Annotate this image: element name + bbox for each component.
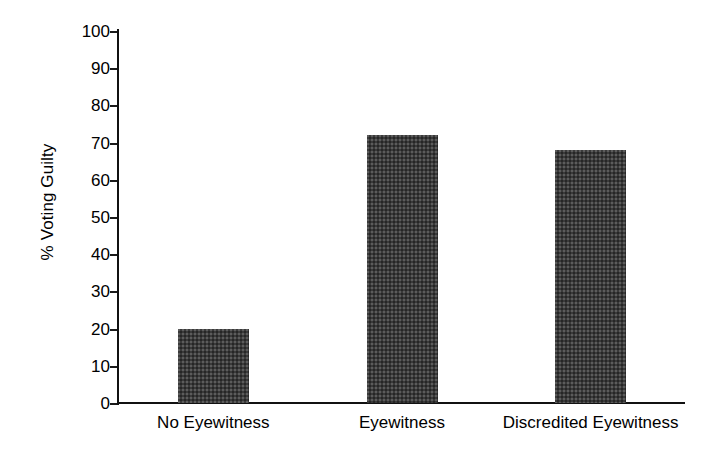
plot-area bbox=[119, 31, 685, 403]
y-axis-tick-label: 40 bbox=[91, 246, 110, 263]
x-axis-tick-labels: No EyewitnessEyewitnessDiscredited Eyewi… bbox=[119, 411, 685, 439]
y-axis-tick-label: 20 bbox=[91, 320, 110, 337]
y-axis-tick-label: 50 bbox=[91, 209, 110, 226]
x-axis-tick-label: Discredited Eyewitness bbox=[503, 411, 679, 435]
bar-chart-figure: % Voting Guilty 0102030405060708090100 N… bbox=[0, 0, 723, 459]
y-axis-tick-label: 60 bbox=[91, 171, 110, 188]
x-axis-tick-label: No Eyewitness bbox=[157, 411, 269, 435]
bar bbox=[555, 150, 626, 403]
bar bbox=[178, 329, 249, 403]
y-axis-tick-label: 10 bbox=[91, 357, 110, 374]
y-axis-tick-label: 30 bbox=[91, 283, 110, 300]
x-axis-tick-label: Eyewitness bbox=[359, 411, 445, 435]
y-axis-tick-label: 90 bbox=[91, 60, 110, 77]
y-axis-tick-labels: 0102030405060708090100 bbox=[55, 31, 110, 403]
y-axis-tick-label: 100 bbox=[82, 23, 110, 40]
y-axis-tick-label: 70 bbox=[91, 134, 110, 151]
bar bbox=[367, 135, 438, 403]
y-axis-tick-label: 0 bbox=[101, 395, 110, 412]
y-axis-tick-label: 80 bbox=[91, 97, 110, 114]
